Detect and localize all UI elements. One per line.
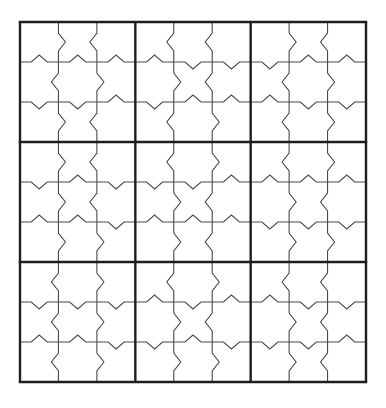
- grid-cell-r8c1[interactable]: [20, 302, 58, 342]
- grid-cell-r3c7[interactable]: [251, 102, 289, 142]
- grid-cell-r4c3[interactable]: [97, 142, 135, 182]
- grid-cell-r2c6[interactable]: [212, 62, 250, 102]
- grid-cell-r7c6[interactable]: [212, 262, 250, 302]
- grid-cell-r7c2[interactable]: [58, 262, 96, 302]
- grid-cell-r8c7[interactable]: [251, 302, 289, 342]
- grid-cell-r4c6[interactable]: [212, 142, 250, 182]
- grid-cell-r5c6[interactable]: [212, 182, 250, 222]
- grid-cell-r6c6[interactable]: [212, 222, 250, 262]
- grid-cell-r1c2[interactable]: [58, 22, 96, 62]
- grid-cell-r2c5[interactable]: [174, 62, 212, 102]
- grid-cell-r1c8[interactable]: [289, 22, 327, 62]
- grid-cell-r6c8[interactable]: [289, 222, 327, 262]
- grid-cell-r5c5[interactable]: [174, 182, 212, 222]
- grid-cell-r3c2[interactable]: [58, 102, 96, 142]
- grid-cell-r3c5[interactable]: [174, 102, 212, 142]
- grid-cell-r4c1[interactable]: [20, 142, 58, 182]
- grid-cell-r7c1[interactable]: [20, 262, 58, 302]
- grid-cell-r8c5[interactable]: [174, 302, 212, 342]
- grid-cell-r6c5[interactable]: [174, 222, 212, 262]
- grid-cell-r4c5[interactable]: [174, 142, 212, 182]
- grid-cell-r9c3[interactable]: [97, 342, 135, 382]
- grid-cell-r5c3[interactable]: [97, 182, 135, 222]
- grid-cell-r9c1[interactable]: [20, 342, 58, 382]
- grid-cell-r1c7[interactable]: [251, 22, 289, 62]
- cells-layer: [20, 22, 366, 382]
- grid-cell-r1c3[interactable]: [97, 22, 135, 62]
- grid-cell-r8c9[interactable]: [328, 302, 366, 342]
- grid-cell-r6c4[interactable]: [135, 222, 173, 262]
- grid-cell-r5c4[interactable]: [135, 182, 173, 222]
- grid-cell-r5c9[interactable]: [328, 182, 366, 222]
- grid-cell-r9c2[interactable]: [58, 342, 96, 382]
- grid-cell-r7c3[interactable]: [97, 262, 135, 302]
- grid-cell-r9c4[interactable]: [135, 342, 173, 382]
- grid-cell-r5c7[interactable]: [251, 182, 289, 222]
- grid-cell-r8c4[interactable]: [135, 302, 173, 342]
- grid-cell-r5c8[interactable]: [289, 182, 327, 222]
- grid-cell-r2c4[interactable]: [135, 62, 173, 102]
- grid-cell-r2c7[interactable]: [251, 62, 289, 102]
- grid-cell-r9c5[interactable]: [174, 342, 212, 382]
- grid-cell-r1c4[interactable]: [135, 22, 173, 62]
- grid-cell-r7c8[interactable]: [289, 262, 327, 302]
- grid-cell-r7c5[interactable]: [174, 262, 212, 302]
- grid-cell-r1c5[interactable]: [174, 22, 212, 62]
- grid-cell-r1c6[interactable]: [212, 22, 250, 62]
- grid-cell-r8c3[interactable]: [97, 302, 135, 342]
- grid-cell-r8c6[interactable]: [212, 302, 250, 342]
- grid-cell-r3c3[interactable]: [97, 102, 135, 142]
- grid-cell-r2c9[interactable]: [328, 62, 366, 102]
- grid-cell-r1c9[interactable]: [328, 22, 366, 62]
- grid-cell-r2c3[interactable]: [97, 62, 135, 102]
- grid-cell-r4c4[interactable]: [135, 142, 173, 182]
- puzzle-board: [0, 0, 386, 408]
- grid-cell-r9c8[interactable]: [289, 342, 327, 382]
- grid-cell-r3c4[interactable]: [135, 102, 173, 142]
- grid-cell-r2c2[interactable]: [58, 62, 96, 102]
- grid-cell-r7c7[interactable]: [251, 262, 289, 302]
- grid-cell-r5c2[interactable]: [58, 182, 96, 222]
- grid-cell-r7c4[interactable]: [135, 262, 173, 302]
- grid-cell-r4c9[interactable]: [328, 142, 366, 182]
- grid-cell-r3c6[interactable]: [212, 102, 250, 142]
- grid-cell-r2c8[interactable]: [289, 62, 327, 102]
- grid-cell-r7c9[interactable]: [328, 262, 366, 302]
- grid-cell-r4c2[interactable]: [58, 142, 96, 182]
- grid-cell-r9c6[interactable]: [212, 342, 250, 382]
- grid-cell-r8c8[interactable]: [289, 302, 327, 342]
- grid-cell-r8c2[interactable]: [58, 302, 96, 342]
- grid-cell-r6c9[interactable]: [328, 222, 366, 262]
- grid-cell-r3c8[interactable]: [289, 102, 327, 142]
- grid-cell-r6c3[interactable]: [97, 222, 135, 262]
- grid-cell-r6c1[interactable]: [20, 222, 58, 262]
- grid-cell-r1c1[interactable]: [20, 22, 58, 62]
- grid-cell-r5c1[interactable]: [20, 182, 58, 222]
- grid-cell-r4c8[interactable]: [289, 142, 327, 182]
- grid-cell-r6c7[interactable]: [251, 222, 289, 262]
- grid-cell-r9c7[interactable]: [251, 342, 289, 382]
- grid-cell-r3c1[interactable]: [20, 102, 58, 142]
- grid-cell-r3c9[interactable]: [328, 102, 366, 142]
- grid-cell-r6c2[interactable]: [58, 222, 96, 262]
- grid-cell-r2c1[interactable]: [20, 62, 58, 102]
- grid-cell-r4c7[interactable]: [251, 142, 289, 182]
- grid-cell-r9c9[interactable]: [328, 342, 366, 382]
